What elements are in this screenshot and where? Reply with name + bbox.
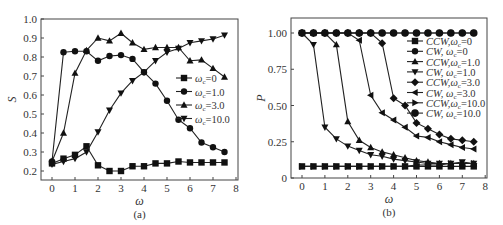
data-point bbox=[424, 125, 432, 133]
legend: ωc=0ωc=1.0ωc=3.0ωc=10.0 bbox=[176, 73, 230, 127]
data-point bbox=[424, 134, 430, 141]
y-tick-label: 0.2 bbox=[23, 165, 37, 177]
data-point bbox=[152, 80, 158, 86]
legend-label: CW, ωc=10.0 bbox=[426, 108, 481, 121]
data-point bbox=[198, 139, 204, 145]
legend-marker bbox=[411, 109, 419, 117]
data-point bbox=[401, 29, 409, 37]
x-axis-title: ω bbox=[385, 192, 393, 206]
legend-marker bbox=[181, 88, 187, 94]
x-tick-label: 4 bbox=[391, 180, 397, 192]
data-point bbox=[436, 138, 442, 145]
data-point bbox=[390, 117, 396, 124]
x-tick-label: 2 bbox=[95, 182, 101, 194]
x-axis-title: ω bbox=[135, 194, 143, 208]
x-tick-label: 4 bbox=[141, 182, 147, 194]
panel-caption: (a) bbox=[133, 208, 146, 221]
data-point bbox=[152, 160, 158, 166]
data-point bbox=[175, 158, 181, 164]
y-tick-label: 0.50 bbox=[268, 100, 288, 112]
legend-marker bbox=[411, 78, 419, 86]
x-tick-label: 7 bbox=[460, 180, 466, 192]
data-point bbox=[470, 138, 478, 146]
data-point bbox=[401, 124, 407, 131]
data-point bbox=[378, 109, 384, 116]
data-point bbox=[310, 42, 317, 48]
data-point bbox=[333, 29, 341, 37]
data-point bbox=[356, 137, 363, 143]
data-point bbox=[95, 162, 101, 168]
data-point bbox=[378, 29, 386, 37]
data-point bbox=[60, 49, 66, 55]
data-point bbox=[83, 149, 90, 155]
data-point bbox=[118, 168, 124, 174]
data-point bbox=[60, 129, 67, 135]
data-point bbox=[298, 29, 306, 37]
chart-panel-b: 01234567800.250.500.751.00ωP(b)CCW,ωc=0C… bbox=[254, 18, 488, 219]
x-tick-label: 5 bbox=[414, 180, 420, 192]
x-tick-label: 2 bbox=[345, 180, 351, 192]
data-point bbox=[210, 159, 216, 165]
x-tick-label: 3 bbox=[118, 182, 124, 194]
data-point bbox=[129, 163, 135, 169]
data-point bbox=[390, 94, 398, 102]
y-tick-label: 0.25 bbox=[268, 136, 288, 148]
data-point bbox=[221, 159, 227, 165]
x-tick-label: 1 bbox=[72, 182, 78, 194]
data-point bbox=[164, 50, 171, 56]
x-tick-label: 7 bbox=[210, 182, 216, 194]
legend-label: ωc=10.0 bbox=[195, 114, 230, 127]
data-point bbox=[187, 159, 193, 165]
panel-caption: (b) bbox=[383, 206, 396, 219]
y-tick-label: 1.00 bbox=[268, 27, 288, 39]
data-point bbox=[198, 159, 204, 165]
y-axis-title: S bbox=[5, 97, 19, 103]
data-point bbox=[210, 144, 216, 150]
x-tick-label: 0 bbox=[49, 182, 55, 194]
data-point bbox=[458, 136, 466, 144]
y-tick-label: 0.6 bbox=[23, 89, 37, 101]
data-point bbox=[447, 135, 455, 143]
chart-panel-a: 0123456780.20.30.40.50.60.70.80.91.0ωS(a… bbox=[5, 13, 239, 221]
y-tick-label: 0.75 bbox=[268, 63, 288, 75]
x-tick-label: 6 bbox=[437, 180, 443, 192]
legend-marker bbox=[412, 48, 418, 54]
data-point bbox=[355, 29, 363, 37]
data-point bbox=[344, 29, 352, 37]
legend-label: ωc=3.0 bbox=[195, 100, 225, 113]
data-point bbox=[221, 73, 228, 79]
x-tick-label: 3 bbox=[368, 180, 374, 192]
x-tick-label: 1 bbox=[322, 180, 328, 192]
data-point bbox=[164, 160, 170, 166]
data-point bbox=[164, 98, 170, 104]
data-point bbox=[106, 168, 112, 174]
data-point bbox=[118, 30, 125, 36]
data-point bbox=[118, 52, 124, 58]
data-point bbox=[95, 58, 101, 64]
data-point bbox=[221, 149, 227, 155]
data-point bbox=[72, 48, 78, 54]
legend-marker bbox=[181, 75, 187, 81]
x-tick-label: 5 bbox=[164, 182, 170, 194]
y-tick-label: 0.3 bbox=[23, 146, 37, 158]
data-point bbox=[210, 65, 217, 71]
data-point bbox=[470, 146, 476, 153]
data-point bbox=[72, 69, 79, 75]
figure: 0123456780.20.30.40.50.60.70.80.91.0ωS(a… bbox=[0, 0, 503, 225]
data-point bbox=[413, 119, 421, 127]
legend: CCW,ωc=0CW, ωc=0CCW,ωc=1.0CW, ωc=1.0CCW,… bbox=[407, 36, 485, 121]
y-axis-title: P bbox=[254, 94, 268, 103]
data-point bbox=[333, 136, 340, 142]
data-point bbox=[141, 163, 147, 169]
x-tick-label: 6 bbox=[187, 182, 193, 194]
data-point bbox=[344, 118, 351, 124]
data-point bbox=[459, 144, 465, 151]
y-tick-label: 0.4 bbox=[23, 127, 37, 139]
data-point bbox=[175, 117, 181, 123]
y-tick-label: 0.5 bbox=[23, 108, 37, 120]
legend-marker bbox=[412, 38, 418, 44]
y-tick-label: 0 bbox=[282, 172, 288, 184]
data-point bbox=[129, 39, 136, 45]
data-point bbox=[106, 108, 113, 114]
x-tick-label: 0 bbox=[299, 180, 305, 192]
